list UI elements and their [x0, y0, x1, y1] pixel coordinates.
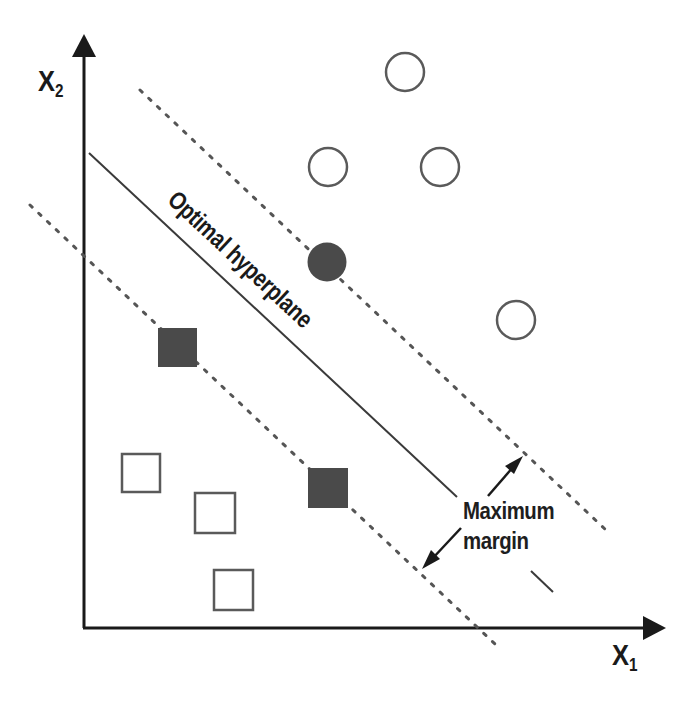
open-circle-point: [421, 148, 459, 186]
open-square-point: [195, 493, 235, 533]
open-circle-point: [497, 301, 535, 339]
y-axis-label-text: X: [38, 64, 54, 97]
support-vector-square: [158, 328, 197, 367]
margin-arrow-down: [432, 528, 461, 559]
open-circle-point: [309, 148, 347, 186]
margin-label-line1: Maximum: [463, 496, 554, 526]
y-axis-label-subscript: 2: [55, 81, 63, 101]
open-square-point: [214, 570, 253, 610]
arrow-up-right-icon: [505, 456, 523, 474]
optimal-hyperplane-line: [89, 153, 457, 497]
circle-class: [308, 53, 536, 339]
x-axis-label-text: X: [612, 638, 628, 671]
x-axis-arrow-icon: [643, 616, 666, 640]
open-circle-point: [386, 53, 424, 91]
optimal-hyperplane-line-end: [531, 571, 553, 592]
x-axis-label-subscript: 1: [629, 655, 637, 675]
square-class: [122, 328, 348, 610]
open-square-point: [122, 454, 160, 492]
y-axis-arrow-icon: [72, 34, 96, 57]
y-axis-label: X2: [38, 64, 63, 102]
upper-margin-line: [140, 90, 607, 531]
maximum-margin-label: Maximum margin: [463, 496, 554, 556]
svm-diagram: [0, 0, 698, 707]
support-vector-square: [308, 468, 348, 508]
margin-label-line2: margin: [463, 526, 554, 556]
support-vector-circle: [308, 243, 347, 282]
x-axis-label: X1: [612, 638, 637, 676]
